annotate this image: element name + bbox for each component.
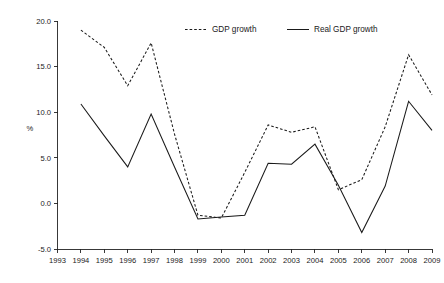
x-tick-label: 2008 <box>400 256 417 265</box>
y-tick-label: 10.0 <box>36 108 51 117</box>
x-tick-label: 1999 <box>189 256 206 265</box>
data-series-group <box>81 30 432 232</box>
x-tick-label: 1993 <box>49 256 66 265</box>
line-chart: -5.00.05.010.015.020.0 % 199319941995199… <box>0 0 444 283</box>
legend-label: Real GDP growth <box>314 25 378 34</box>
x-tick-label: 1998 <box>166 256 183 265</box>
y-axis: -5.00.05.010.015.020.0 % <box>27 17 58 254</box>
x-tick-label: 2005 <box>330 256 347 265</box>
x-tick-label: 2002 <box>260 256 277 265</box>
y-tick-label: 0.0 <box>40 199 51 208</box>
x-tick-label: 1994 <box>72 256 89 265</box>
x-tick-label: 1996 <box>119 256 136 265</box>
x-tick-labels: 1993199419951996199719981999200020012002… <box>49 256 440 265</box>
x-tick-label: 2004 <box>307 256 324 265</box>
y-tick-label: 5.0 <box>40 154 51 163</box>
x-tick-label: 2006 <box>353 256 370 265</box>
series-line-real-gdp-growth <box>81 101 432 232</box>
y-tick-label: 20.0 <box>36 17 51 26</box>
x-tick-label: 2001 <box>236 256 253 265</box>
x-axis: 1993199419951996199719981999200020012002… <box>49 249 440 265</box>
y-tick-marks <box>54 21 58 249</box>
x-tick-label: 2007 <box>377 256 394 265</box>
chart-container: -5.00.05.010.015.020.0 % 199319941995199… <box>0 0 444 283</box>
y-tick-label: 15.0 <box>36 62 51 71</box>
y-tick-labels: -5.00.05.010.015.020.0 <box>36 17 51 254</box>
legend-label: GDP growth <box>212 25 257 34</box>
x-tick-label: 1997 <box>143 256 160 265</box>
x-tick-label: 2009 <box>424 256 441 265</box>
y-tick-label: -5.0 <box>38 245 51 254</box>
x-tick-label: 2003 <box>283 256 300 265</box>
x-tick-label: 2000 <box>213 256 230 265</box>
x-tick-label: 1995 <box>96 256 113 265</box>
chart-legend: GDP growthReal GDP growth <box>185 25 378 34</box>
y-axis-label: % <box>27 124 34 133</box>
